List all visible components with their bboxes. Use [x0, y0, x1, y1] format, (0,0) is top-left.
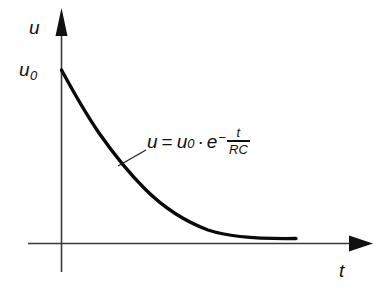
equation-equals-sign: =: [162, 132, 173, 151]
curve-equation-annotation: u = u0 · e − t RC: [147, 132, 250, 167]
equation-amplitude-subscript: 0: [187, 137, 194, 150]
equation-amplitude: u: [177, 132, 188, 151]
equation-multiplication-dot: ·: [198, 132, 204, 151]
x-axis-label: t: [339, 261, 344, 280]
fraction-numerator: t: [235, 126, 243, 140]
y-axis-label: u: [29, 18, 40, 37]
equation-exponential-base: e: [207, 132, 218, 151]
x-axis-arrow-icon: [349, 236, 373, 252]
equation-exponent: − t RC: [218, 126, 249, 156]
u0-base: u: [19, 59, 30, 80]
y-axis-arrow-icon: [56, 8, 68, 36]
equation-lhs: u: [147, 132, 158, 151]
exponent-minus-sign: −: [218, 131, 226, 144]
fraction-denominator: RC: [227, 142, 250, 156]
figure-container: u u0 t u = u0 · e − t RC: [0, 0, 391, 293]
exponent-fraction: t RC: [227, 126, 250, 156]
y-axis-u0-tick-label: u0: [19, 60, 37, 82]
u0-subscript: 0: [30, 68, 37, 83]
annotation-leader-line: [118, 150, 146, 166]
